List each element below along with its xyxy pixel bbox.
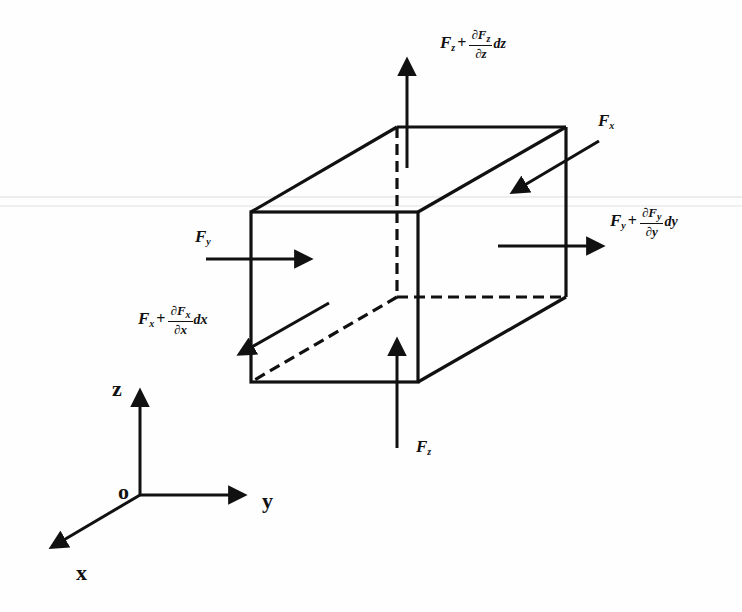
z-axis-label: z — [112, 378, 122, 400]
label-bottom-force-z: Fz — [416, 438, 431, 457]
label-right-force-y: Fy+∂Fy∂ydy — [610, 206, 678, 238]
fraction: ∂Fz∂z — [469, 28, 492, 60]
diagram-canvas: z o y x Fz+∂Fz∂zdz Fx Fy Fy+∂Fy∂ydy Fx+∂… — [0, 0, 742, 612]
label-front-force-x: Fx+∂Fx∂xdx — [138, 304, 208, 336]
scan-artifact-lines — [0, 197, 742, 206]
force-arrow-front-x — [250, 303, 329, 348]
label-top-force: Fz+∂Fz∂zdz — [440, 28, 506, 60]
cube-front-face — [251, 212, 418, 382]
y-axis-label: y — [262, 490, 273, 512]
cube-edge — [251, 127, 397, 212]
fraction: ∂Fy∂y — [640, 206, 664, 238]
x-axis-label: x — [76, 562, 87, 584]
diagram-svg — [0, 0, 742, 612]
fraction: ∂Fx∂x — [168, 304, 192, 336]
coordinate-axes — [62, 403, 232, 541]
origin-label: o — [118, 481, 129, 503]
cube-edge — [418, 127, 566, 212]
label-back-force-x: Fx — [598, 112, 614, 131]
force-arrow-back-x — [523, 141, 599, 186]
label-left-force-y: Fy — [195, 228, 211, 247]
cube-edge — [418, 297, 566, 382]
